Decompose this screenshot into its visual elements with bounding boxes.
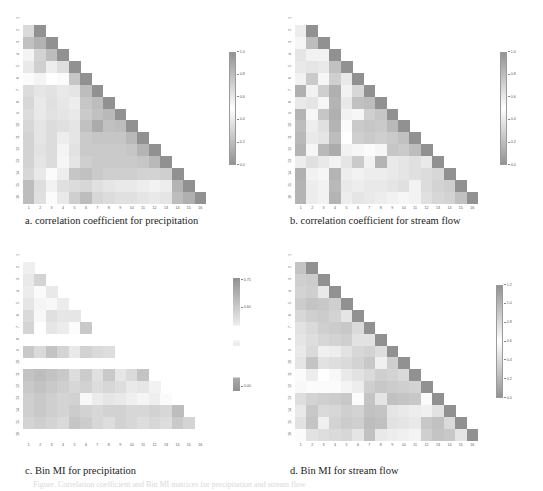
heatmap-cell xyxy=(137,405,149,417)
heatmap-cell xyxy=(318,369,330,381)
heatmap-cell xyxy=(341,180,353,192)
heatmap-cell xyxy=(329,120,341,132)
heatmap-cell xyxy=(432,192,444,204)
heatmap-diagonal-cell xyxy=(432,156,444,168)
heatmap-cell xyxy=(115,132,127,144)
heatmap-cell xyxy=(387,381,399,393)
heatmap-diagonal-cell xyxy=(375,97,387,109)
heatmap-cell xyxy=(329,393,341,405)
y-axis-tick-label: 11 xyxy=(16,370,20,378)
heatmap-cell xyxy=(398,156,410,168)
heatmap-diagonal-cell xyxy=(444,168,456,180)
x-axis-tick-label: 9 xyxy=(116,443,124,447)
colorbar-frame-d xyxy=(496,285,503,398)
heatmap-cell xyxy=(306,61,318,73)
colorbar-tick-label: 0.0 xyxy=(237,163,245,167)
heatmap-cell xyxy=(352,357,364,369)
heatmap-cell xyxy=(137,156,149,168)
heatmap-cell xyxy=(69,369,81,381)
x-axis-tick-label: 5 xyxy=(70,443,78,447)
heatmap-cell xyxy=(387,357,399,369)
heatmap-cell xyxy=(172,192,184,204)
heatmap-cell xyxy=(329,346,341,358)
heatmap-diagonal-cell xyxy=(329,49,341,61)
heatmap-diagonal-cell xyxy=(352,73,364,85)
colorbar-tick-mark xyxy=(504,341,507,342)
heatmap-cell xyxy=(126,393,138,405)
x-axis-tick-label: 6 xyxy=(354,206,362,210)
y-axis-tick-label: 4 xyxy=(288,287,292,295)
heatmap-cell xyxy=(444,429,456,441)
heatmap-cell xyxy=(103,381,115,393)
x-axis-tick-label: 9 xyxy=(388,206,396,210)
heatmap-cell xyxy=(126,381,138,393)
heatmap-cell xyxy=(295,132,307,144)
x-axis-tick-label: 3 xyxy=(320,443,328,447)
heatmap-cell xyxy=(295,156,307,168)
x-axis-tick-label: 4 xyxy=(331,206,339,210)
heatmap-cell xyxy=(149,192,161,204)
colorbar-tick-label: 0.8 xyxy=(508,72,516,76)
y-axis-tick-label: 10 xyxy=(16,358,20,366)
heatmap-cell xyxy=(318,346,330,358)
heatmap-cell xyxy=(387,168,399,180)
heatmap-cell xyxy=(92,369,104,381)
y-axis-tick-label: 8 xyxy=(288,98,292,106)
heatmap-cell xyxy=(126,168,138,180)
y-axis-tick-label: 1 xyxy=(288,14,292,22)
heatmap-cell xyxy=(444,417,456,429)
x-axis-tick-label: 3 xyxy=(320,206,328,210)
heatmap-cell xyxy=(23,156,35,168)
heatmap-d: 1234567891011121314151612345678910111213… xyxy=(295,250,478,441)
x-axis-tick-label: 11 xyxy=(139,206,147,210)
heatmap-cell xyxy=(352,109,364,121)
heatmap-cell xyxy=(137,369,149,381)
y-axis-tick-label: 16 xyxy=(288,193,292,201)
heatmap-cell xyxy=(387,180,399,192)
heatmap-cell xyxy=(23,144,35,156)
heatmap-diagonal-cell xyxy=(387,346,399,358)
heatmap-cell xyxy=(421,417,433,429)
heatmap-cell xyxy=(375,405,387,417)
heatmap-diagonal-cell xyxy=(387,109,399,121)
heatmap-cell xyxy=(126,417,138,429)
heatmap-cell xyxy=(92,180,104,192)
heatmap-cell xyxy=(57,393,69,405)
heatmap-cell xyxy=(295,357,307,369)
heatmap-cell xyxy=(387,429,399,441)
heatmap-cell xyxy=(329,132,341,144)
heatmap-cell xyxy=(46,369,58,381)
colorbar-tick-mark xyxy=(508,74,511,75)
heatmap-cell xyxy=(318,192,330,204)
heatmap-cell xyxy=(115,393,127,405)
y-axis-tick-label: 4 xyxy=(16,50,20,58)
heatmap-cell xyxy=(126,132,138,144)
y-axis-tick-label: 14 xyxy=(288,406,292,414)
heatmap-cell xyxy=(46,381,58,393)
x-axis-tick-label: 16 xyxy=(196,206,204,210)
heatmap-cell xyxy=(341,168,353,180)
heatmap-cell xyxy=(92,109,104,121)
y-axis-tick-label: 2 xyxy=(288,26,292,34)
heatmap-cell xyxy=(306,144,318,156)
heatmap-cell xyxy=(149,417,161,429)
x-axis-tick-label: 14 xyxy=(173,206,181,210)
colorbar-d: 1.21.00.80.60.40.20.0 xyxy=(496,285,503,398)
heatmap-cell xyxy=(69,346,81,358)
heatmap-cell xyxy=(46,180,58,192)
x-axis-tick-label: 5 xyxy=(70,206,78,210)
heatmap-cell xyxy=(92,381,104,393)
heatmap-cell xyxy=(341,97,353,109)
colorbar-tick-mark xyxy=(237,142,240,143)
colorbar-c: 0.750.600.00 xyxy=(233,278,240,391)
heatmap-cell xyxy=(80,97,92,109)
heatmap-cell xyxy=(387,369,399,381)
heatmap-diagonal-cell xyxy=(306,25,318,37)
heatmap-cell xyxy=(409,180,421,192)
heatmap-cell xyxy=(34,192,46,204)
x-axis-tick-label: 4 xyxy=(59,443,67,447)
heatmap-cell xyxy=(375,369,387,381)
heatmap-diagonal-cell xyxy=(375,334,387,346)
y-axis-tick-label: 9 xyxy=(288,109,292,117)
heatmap-cell xyxy=(46,168,58,180)
